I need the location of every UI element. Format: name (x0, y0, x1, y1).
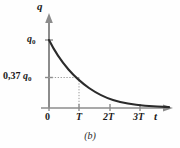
guide-lines (49, 78, 79, 108)
x-tick-label-3T: 3T (133, 112, 144, 122)
x-tick-label-T: T (76, 112, 82, 122)
figure-container: q t q0 0,37 q0 0 T 2T 3T (b) (0, 0, 180, 148)
decay-curve (49, 40, 169, 107)
figure-caption: (b) (0, 130, 180, 141)
fraction-prefix: 0,37 (3, 70, 23, 81)
x-tick-label-0: 0 (45, 112, 50, 122)
x-tick-label-2T: 2T (103, 112, 114, 122)
q0-subscript: 0 (32, 38, 36, 46)
y-value-label-q0: q0 (27, 34, 36, 44)
x-axis-label: t (154, 111, 157, 122)
fraction-subscript: 0 (28, 75, 32, 83)
y-axis (45, 13, 53, 108)
y-axis-label: q (37, 1, 43, 12)
y-value-label-037-q0: 0,37 q0 (3, 71, 32, 81)
